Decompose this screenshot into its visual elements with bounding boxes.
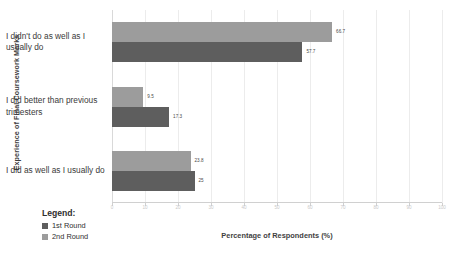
legend-label: 2nd Round xyxy=(52,232,88,241)
legend-item-2nd-round[interactable]: 2nd Round xyxy=(42,232,88,241)
bar[interactable] xyxy=(112,107,169,127)
x-tick-label: 80 xyxy=(373,205,378,210)
x-tick-label: 20 xyxy=(175,205,180,210)
legend-swatch-icon xyxy=(42,223,48,229)
category-label: I did as well as I usually do xyxy=(6,165,106,177)
x-tick-label: 70 xyxy=(340,205,345,210)
x-axis-title: Percentage of Respondents (%) xyxy=(112,231,442,240)
bar[interactable] xyxy=(112,171,195,191)
x-tick-label: 40 xyxy=(241,205,246,210)
legend-item-1st-round[interactable]: 1st Round xyxy=(42,221,88,230)
bar-value-label: 23.8 xyxy=(195,151,204,171)
legend-swatch-icon xyxy=(42,234,48,240)
category-label: I did better than previous trimesters xyxy=(6,95,106,118)
x-tick-label: 50 xyxy=(274,205,279,210)
bar[interactable] xyxy=(112,151,191,171)
x-tick-label: 90 xyxy=(406,205,411,210)
x-tick-label: 60 xyxy=(307,205,312,210)
plot-area: 66.757.79.517.323.825 xyxy=(112,10,442,203)
bar[interactable] xyxy=(112,42,302,62)
gridline xyxy=(409,10,410,203)
x-tick-label: 10 xyxy=(142,205,147,210)
bar-value-label: 9.5 xyxy=(147,87,153,107)
x-tick-label: 30 xyxy=(208,205,213,210)
x-tick-labels: 0102030405060708090100 xyxy=(112,205,442,215)
gridline xyxy=(376,10,377,203)
bar-value-label: 17.3 xyxy=(173,107,182,127)
category-label: I didn't do as well as I usually do xyxy=(6,31,106,54)
legend-title: Legend: xyxy=(42,208,88,218)
bar-value-label: 57.7 xyxy=(306,42,315,62)
legend: Legend: 1st Round 2nd Round xyxy=(42,208,88,241)
bar[interactable] xyxy=(112,87,143,107)
category-labels: I didn't do as well as I usually doI did… xyxy=(0,10,112,203)
bar-value-label: 66.7 xyxy=(336,22,345,42)
gridline xyxy=(442,10,443,203)
x-tick-label: 100 xyxy=(438,205,446,210)
bar[interactable] xyxy=(112,22,332,42)
legend-label: 1st Round xyxy=(52,221,86,230)
chart-container: Experience of Final Coursework Marks I d… xyxy=(0,0,468,263)
x-tick-label: 0 xyxy=(111,205,114,210)
bar-value-label: 25 xyxy=(199,171,204,191)
